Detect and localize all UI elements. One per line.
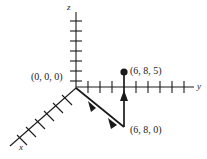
vertical-arrowhead xyxy=(120,90,128,101)
vector-origin-to-xy xyxy=(76,88,124,127)
x-axis-ticks xyxy=(17,95,72,145)
z-axis-label: z xyxy=(67,3,71,12)
point-label-680: (6, 8, 0) xyxy=(130,125,162,135)
point-marker-685 xyxy=(120,68,127,75)
x-axis-label: x xyxy=(19,143,23,152)
point-label-685: (6, 8, 5) xyxy=(130,66,162,76)
coordinate-diagram: z y x (0, 0, 0) (6, 8, 5) (6, 8, 0) xyxy=(0,0,207,159)
y-axis-label: y xyxy=(197,82,201,91)
origin-label: (0, 0, 0) xyxy=(31,72,63,82)
vector-arrowheads xyxy=(88,90,128,129)
